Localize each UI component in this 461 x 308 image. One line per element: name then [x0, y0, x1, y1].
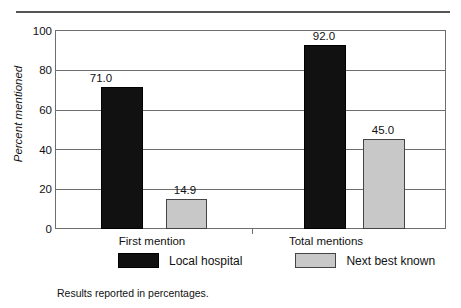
- legend-label-next-best-known: Next best known: [346, 255, 435, 267]
- bar-next-best-known-total-mentions[interactable]: [363, 139, 405, 229]
- y-tick-label-80: 80: [8, 65, 52, 77]
- bar-value-local-hospital-total-mentions: 92.0: [303, 31, 345, 43]
- x-category-label-total-mentions: Total mentions: [266, 236, 386, 248]
- y-tick-label-100: 100: [8, 26, 52, 38]
- bar-value-next-best-known-total-mentions: 45.0: [362, 125, 404, 137]
- legend-entry-local-hospital[interactable]: Local hospital: [118, 253, 242, 268]
- legend-swatch-local-hospital: [118, 253, 159, 268]
- bar-chart-figure: Percent mentioned 100 80 60 40 20 0 71.0…: [0, 0, 461, 308]
- legend-label-local-hospital: Local hospital: [169, 255, 242, 267]
- bar-value-next-best-known-first-mention: 14.9: [164, 185, 206, 197]
- legend-swatch-next-best-known: [295, 253, 336, 268]
- bar-next-best-known-first-mention[interactable]: [166, 199, 207, 229]
- bar-value-local-hospital-first-mention: 71.0: [80, 73, 122, 85]
- legend-entry-next-best-known[interactable]: Next best known: [295, 253, 435, 268]
- y-tick-label-0: 0: [8, 224, 52, 236]
- chart-legend: Local hospital Next best known: [118, 253, 435, 268]
- bar-local-hospital-first-mention[interactable]: [101, 87, 143, 229]
- gridline-80: [56, 70, 445, 71]
- x-category-label-first-mention: First mention: [92, 236, 212, 248]
- y-tick-label-20: 20: [8, 184, 52, 196]
- y-tick-label-60: 60: [8, 105, 52, 117]
- x-axis-tick: [252, 229, 253, 234]
- bar-local-hospital-total-mentions[interactable]: [304, 45, 346, 229]
- y-tick-label-40: 40: [8, 145, 52, 157]
- figure-caption: Results reported in percentages.: [57, 287, 209, 299]
